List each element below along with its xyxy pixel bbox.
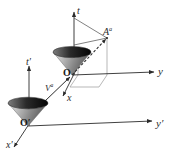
vector-label-A-sup: a bbox=[109, 25, 112, 32]
prime-mark-y: ′ bbox=[161, 117, 163, 129]
frame-unprimed bbox=[53, 12, 154, 96]
axis-label-t-prime: t′ bbox=[26, 57, 31, 67]
lightcone-diagram bbox=[0, 0, 172, 159]
origin-label-primed: O′ bbox=[20, 118, 31, 128]
axis-label-t: t bbox=[77, 6, 80, 16]
boost-vector-label-sup: a bbox=[51, 82, 54, 88]
prime-mark-t: ′ bbox=[29, 56, 31, 67]
y-prime-axis bbox=[28, 121, 152, 126]
axis-label-y: y bbox=[158, 66, 163, 77]
axis-label-y-prime: y′ bbox=[156, 118, 163, 129]
cone-rim-ellipse bbox=[53, 46, 91, 57]
vector-label-A: Aa bbox=[103, 26, 112, 37]
y-axis bbox=[72, 72, 154, 75]
prime-mark-x: ′ bbox=[10, 139, 12, 150]
origin-label-unprimed: O bbox=[63, 68, 71, 78]
frame-primed bbox=[8, 66, 152, 147]
boost-vector-label: Va bbox=[45, 83, 53, 93]
cone-prime-rim-ellipse bbox=[8, 97, 48, 109]
axis-label-x: x bbox=[67, 93, 71, 103]
axis-label-x-prime: x′ bbox=[6, 140, 13, 150]
